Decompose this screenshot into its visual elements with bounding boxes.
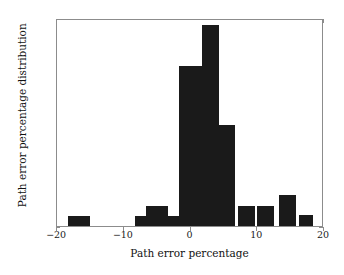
x-axis-tick-mark xyxy=(123,227,124,231)
y-axis-title: Path error percentage distribution xyxy=(17,11,28,219)
histogram-bar xyxy=(179,66,202,226)
histogram-bar xyxy=(279,195,296,226)
histogram-bar xyxy=(146,206,169,226)
x-axis-tick-label: 0 xyxy=(168,230,212,240)
x-axis-tick-label: −10 xyxy=(101,230,145,240)
x-axis-tick-label: 10 xyxy=(234,230,278,240)
histogram-bar xyxy=(168,216,179,226)
histogram-bar xyxy=(299,215,313,226)
x-axis-tick-mark xyxy=(256,227,257,231)
histogram-bar xyxy=(257,206,274,226)
plot-area xyxy=(56,19,323,227)
x-axis-tick-label: 20 xyxy=(301,230,344,240)
x-axis-tick-label: −20 xyxy=(34,230,78,240)
x-axis-tick-mark xyxy=(323,19,324,23)
histogram-bars xyxy=(57,20,322,226)
x-axis-tick-mark xyxy=(56,227,57,231)
histogram-bar xyxy=(68,216,90,226)
histogram-bar xyxy=(238,206,255,226)
x-axis-tick-mark xyxy=(323,227,324,231)
x-axis-tick-mark xyxy=(190,227,191,231)
chart-figure: 00.050.10.150.20.250.30.35 −20−1001020 P… xyxy=(0,0,344,275)
histogram-bar xyxy=(202,25,219,226)
x-axis-title: Path error percentage xyxy=(56,248,323,259)
histogram-bar xyxy=(219,125,236,226)
